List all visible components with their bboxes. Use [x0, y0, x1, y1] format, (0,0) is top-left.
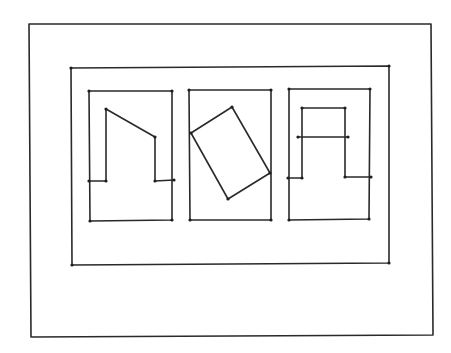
vertex-dot: [343, 175, 346, 178]
vertex-dot: [170, 89, 173, 92]
panel-left-frame: [89, 91, 172, 221]
vertex-dot: [343, 106, 346, 109]
vertex-dot: [172, 178, 175, 181]
vertex-dot: [369, 175, 372, 178]
vertex-dot: [187, 88, 190, 91]
vertex-dot: [367, 217, 370, 220]
rotated-rectangle-shape: [191, 107, 270, 199]
vertex-dot: [387, 261, 390, 264]
panel-middle: [189, 90, 271, 220]
vertex-dot: [387, 64, 390, 67]
vertex-dots: [69, 64, 390, 266]
vertex-dot: [346, 135, 349, 138]
vertex-dot: [296, 135, 299, 138]
vertex-dot: [269, 88, 272, 91]
vertex-dot: [269, 218, 272, 221]
panel-left: [89, 91, 174, 221]
vertex-dot: [87, 89, 90, 92]
vertex-dot: [104, 107, 107, 110]
inner-frame: [71, 66, 389, 265]
vertex-dot: [230, 105, 233, 108]
panel-right: [288, 89, 371, 220]
vertex-dot: [300, 106, 303, 109]
vertex-dot: [300, 176, 303, 179]
sketch-canvas: [0, 0, 451, 353]
vertex-dot: [87, 179, 90, 182]
vertex-dot: [88, 219, 91, 222]
panel-middle-frame: [189, 90, 271, 220]
vertex-dot: [170, 218, 173, 221]
vertex-dot: [226, 197, 229, 200]
vertex-dot: [70, 263, 73, 266]
vertex-dot: [104, 179, 107, 182]
vertex-dot: [286, 176, 289, 179]
vertex-dot: [153, 179, 156, 182]
vertex-dot: [287, 87, 290, 90]
vertex-dot: [69, 66, 72, 69]
vertex-dot: [188, 218, 191, 221]
vertex-dot: [368, 87, 371, 90]
slanted-notch-shape: [89, 109, 174, 181]
arch-shape: [288, 108, 371, 178]
panels-group: [89, 89, 371, 221]
vertex-dot: [189, 131, 192, 134]
vertex-dot: [287, 218, 290, 221]
vertex-dot: [268, 171, 271, 174]
vertex-dot: [153, 135, 156, 138]
